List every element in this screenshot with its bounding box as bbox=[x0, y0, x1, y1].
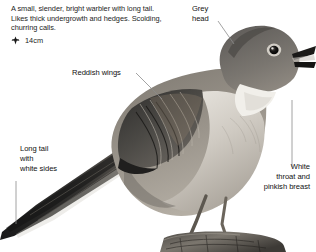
size-label: 14cm bbox=[25, 36, 43, 45]
perch-post bbox=[160, 232, 286, 252]
callout-long-tail: Long tail with white sides bbox=[20, 144, 57, 173]
callout-grey-head: Grey head bbox=[192, 4, 209, 24]
bird-field-guide-plate: A small, slender, bright warbler with lo… bbox=[0, 0, 316, 252]
species-description: A small, slender, bright warbler with lo… bbox=[11, 4, 163, 33]
size-arrows-icon bbox=[11, 36, 20, 45]
callout-white-throat: White throat and pinkish breast bbox=[232, 162, 310, 191]
callout-reddish-wings: Reddish wings bbox=[72, 68, 121, 78]
warbler-illustration bbox=[0, 0, 316, 252]
size-row: 14cm bbox=[11, 36, 43, 45]
